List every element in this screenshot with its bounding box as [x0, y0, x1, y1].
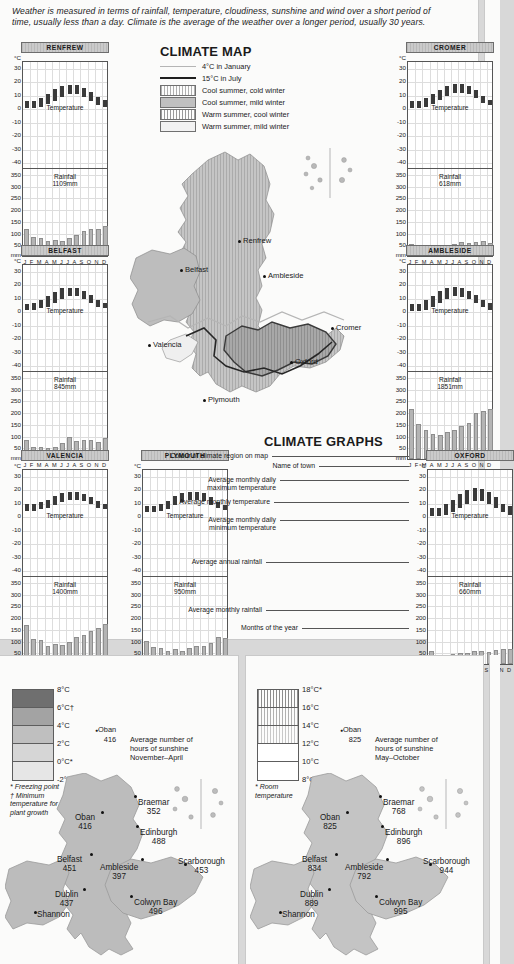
scale-label: 0°C* [57, 757, 73, 766]
rain-tick-label: 300 [390, 184, 406, 190]
city-sunshine-hours: 896 [385, 837, 422, 846]
temperature-bar [53, 89, 57, 101]
key-line-2: 15°C in July [160, 72, 289, 84]
temperature-bar [75, 288, 79, 296]
sunshine-caption: Average number ofhours of sunshineNovemb… [130, 735, 193, 762]
gridline [444, 265, 445, 371]
city-sunshine-hours: 825 [320, 822, 340, 831]
key-region-2: Cool summer, mild winter [160, 96, 289, 108]
key-region-label: Cool summer, cold winter [202, 86, 285, 95]
city-sunshine-hours: 792 [345, 872, 383, 881]
annual-rainfall-value: 618mm [408, 180, 492, 187]
city-sunshine-hours: 453 [178, 866, 225, 875]
temp-tick-label: 10 [5, 295, 21, 301]
gridline [408, 285, 492, 286]
gridline [52, 470, 53, 576]
sunshine-example-city: Oban [98, 725, 116, 734]
gridline [30, 62, 31, 168]
gridline [408, 413, 492, 414]
gridline [88, 62, 89, 168]
rain-tick-label: 250 [5, 603, 21, 609]
gridline [23, 366, 107, 367]
sunshine-example-value: 416 [95, 735, 125, 744]
gridline [80, 62, 81, 168]
climate-graph-title: AMBLESIDE [406, 245, 494, 256]
gridline [23, 69, 107, 70]
rainfall-caption: Rainfall1851mm [408, 376, 492, 390]
city-name: Belfast [57, 855, 82, 864]
rain-tick-label: 100 [5, 434, 21, 440]
temp-tick-label: -30 [410, 554, 426, 560]
climate-graphs-heading: CLIMATE GRAPHS [264, 434, 383, 449]
city-name: Scarborough [423, 857, 470, 866]
scale-band [258, 708, 298, 726]
temperature-caption: Temperature [23, 104, 107, 111]
city-sunshine-hours: 889 [300, 899, 323, 908]
temperature-bar [460, 84, 464, 93]
city-sunshine-label: Colwyn Bay995 [379, 898, 422, 917]
gridline [73, 62, 74, 168]
temp-unit-label: °C [5, 55, 21, 61]
temp-tick-label: -10 [5, 527, 21, 533]
gridline [493, 470, 494, 576]
temp-tick-label: -30 [5, 554, 21, 560]
temp-tick-label: -20 [410, 540, 426, 546]
annotation-leader-line [266, 610, 409, 611]
temp-tick-label: 30 [410, 473, 426, 479]
annual-rainfall-value: 1400mm [23, 588, 107, 595]
climate-map-key: 4°C in January15°C in JulyCool summer, c… [160, 60, 289, 132]
gridline [428, 618, 512, 619]
gridline [37, 470, 38, 576]
temperature-caption: Temperature [408, 307, 492, 314]
gridline [66, 62, 67, 168]
temperature-bar [82, 291, 86, 299]
sunshine-caption-line: hours of sunshine [375, 744, 438, 753]
sunshine-example-city: Oban [343, 725, 361, 734]
scale-label: 10°C [302, 757, 319, 766]
temp-tick-label: 0 [390, 308, 406, 314]
city-sunshine-label: Scarborough453 [178, 857, 225, 876]
temperature-scale [12, 689, 54, 781]
city-sunshine-label: Edinburgh896 [385, 828, 422, 847]
rainfall-plot: Rainfall660mm [427, 577, 513, 665]
gridline [59, 265, 60, 371]
annotation-label: Average monthly dailymaximum temperature [76, 476, 276, 493]
gridline [59, 470, 60, 576]
temp-tick-label: 20 [5, 486, 21, 492]
bottom-right-edge [489, 655, 500, 964]
rainfall-plot: Rainfall1400mm [22, 577, 108, 665]
gridline [80, 265, 81, 371]
gridline [23, 96, 107, 97]
gridline [59, 62, 60, 168]
scale-label: 6°C† [57, 703, 74, 712]
scale-label: 8°C [57, 685, 70, 694]
gridline [88, 265, 89, 371]
temperature-plot: Temperature [407, 264, 493, 372]
rain-tick-label: 50 [390, 445, 406, 451]
temperature-bar [453, 287, 457, 296]
scale-label: 2°C [57, 739, 70, 748]
temperature-caption: Temperature [408, 104, 492, 111]
gridline [473, 62, 474, 168]
temp-tick-label: -40 [5, 567, 21, 573]
temp-tick-label: 0 [390, 105, 406, 111]
rain-tick-label: 300 [5, 592, 21, 598]
rainfall-plot: Rainfall950mm [142, 577, 228, 665]
gridline [428, 558, 512, 559]
gridline [23, 544, 107, 545]
rain-tick-label: 250 [410, 603, 426, 609]
city-sunshine-label: Scarborough944 [423, 857, 470, 876]
gridline [143, 618, 227, 619]
key-line-label: 4°C in January [202, 62, 251, 71]
temp-tick-label: 20 [390, 78, 406, 84]
temp-tick-label: 10 [390, 92, 406, 98]
map-city-label: Cromer [336, 323, 361, 332]
scale-label: 14°C [302, 721, 319, 730]
rain-tick-label: 100 [410, 639, 426, 645]
temperature-plot: Temperature [427, 469, 513, 577]
temperature-bar [53, 496, 57, 505]
scale-band [258, 744, 298, 762]
rain-tick-label: 300 [410, 592, 426, 598]
rainfall-plot: Rainfall618mm [407, 169, 493, 257]
sunshine-example-value: 825 [340, 735, 370, 744]
